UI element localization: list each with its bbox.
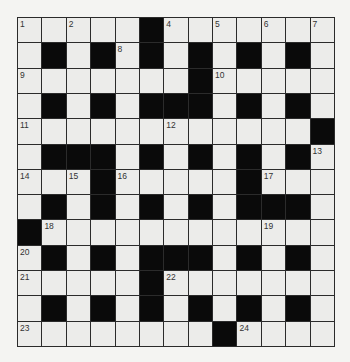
answer-cell[interactable]: 20 bbox=[18, 246, 41, 270]
answer-cell[interactable] bbox=[286, 271, 309, 295]
answer-cell[interactable]: 6 bbox=[262, 18, 285, 42]
answer-cell[interactable]: 4 bbox=[164, 18, 187, 42]
answer-cell[interactable]: 24 bbox=[237, 322, 260, 346]
answer-cell[interactable] bbox=[140, 119, 163, 143]
answer-cell[interactable] bbox=[18, 94, 41, 118]
answer-cell[interactable] bbox=[164, 43, 187, 67]
answer-cell[interactable] bbox=[286, 220, 309, 244]
answer-cell[interactable] bbox=[213, 94, 236, 118]
answer-cell[interactable] bbox=[116, 296, 139, 320]
answer-cell[interactable] bbox=[262, 119, 285, 143]
answer-cell[interactable] bbox=[67, 119, 90, 143]
answer-cell[interactable] bbox=[91, 271, 114, 295]
answer-cell[interactable]: 2 bbox=[67, 18, 90, 42]
answer-cell[interactable] bbox=[140, 69, 163, 93]
answer-cell[interactable] bbox=[140, 170, 163, 194]
answer-cell[interactable] bbox=[189, 220, 212, 244]
answer-cell[interactable] bbox=[213, 246, 236, 270]
answer-cell[interactable]: 19 bbox=[262, 220, 285, 244]
answer-cell[interactable] bbox=[116, 145, 139, 169]
answer-cell[interactable] bbox=[116, 18, 139, 42]
answer-cell[interactable] bbox=[42, 18, 65, 42]
answer-cell[interactable] bbox=[237, 220, 260, 244]
answer-cell[interactable] bbox=[311, 170, 334, 194]
answer-cell[interactable] bbox=[213, 271, 236, 295]
answer-cell[interactable] bbox=[67, 43, 90, 67]
answer-cell[interactable] bbox=[91, 18, 114, 42]
answer-cell[interactable] bbox=[67, 271, 90, 295]
answer-cell[interactable] bbox=[262, 145, 285, 169]
answer-cell[interactable] bbox=[311, 220, 334, 244]
answer-cell[interactable] bbox=[164, 170, 187, 194]
answer-cell[interactable] bbox=[164, 195, 187, 219]
answer-cell[interactable]: 21 bbox=[18, 271, 41, 295]
answer-cell[interactable] bbox=[189, 271, 212, 295]
answer-cell[interactable] bbox=[42, 271, 65, 295]
answer-cell[interactable] bbox=[311, 69, 334, 93]
answer-cell[interactable] bbox=[213, 43, 236, 67]
answer-cell[interactable] bbox=[67, 94, 90, 118]
answer-cell[interactable] bbox=[116, 246, 139, 270]
answer-cell[interactable] bbox=[18, 195, 41, 219]
answer-cell[interactable] bbox=[311, 195, 334, 219]
answer-cell[interactable] bbox=[237, 271, 260, 295]
answer-cell[interactable]: 22 bbox=[164, 271, 187, 295]
answer-cell[interactable]: 23 bbox=[18, 322, 41, 346]
answer-cell[interactable] bbox=[116, 94, 139, 118]
answer-cell[interactable]: 5 bbox=[213, 18, 236, 42]
answer-cell[interactable] bbox=[18, 43, 41, 67]
answer-cell[interactable] bbox=[42, 322, 65, 346]
answer-cell[interactable]: 13 bbox=[311, 145, 334, 169]
answer-cell[interactable]: 1 bbox=[18, 18, 41, 42]
answer-cell[interactable] bbox=[189, 322, 212, 346]
answer-cell[interactable] bbox=[237, 18, 260, 42]
answer-cell[interactable] bbox=[262, 94, 285, 118]
answer-cell[interactable] bbox=[286, 119, 309, 143]
answer-cell[interactable] bbox=[311, 271, 334, 295]
answer-cell[interactable] bbox=[286, 18, 309, 42]
answer-cell[interactable]: 8 bbox=[116, 43, 139, 67]
answer-cell[interactable]: 10 bbox=[213, 69, 236, 93]
answer-cell[interactable]: 14 bbox=[18, 170, 41, 194]
answer-cell[interactable] bbox=[91, 220, 114, 244]
answer-cell[interactable] bbox=[213, 296, 236, 320]
answer-cell[interactable] bbox=[67, 322, 90, 346]
answer-cell[interactable] bbox=[262, 43, 285, 67]
answer-cell[interactable] bbox=[311, 94, 334, 118]
answer-cell[interactable] bbox=[116, 271, 139, 295]
answer-cell[interactable] bbox=[311, 322, 334, 346]
answer-cell[interactable] bbox=[262, 246, 285, 270]
answer-cell[interactable] bbox=[311, 296, 334, 320]
answer-cell[interactable] bbox=[67, 246, 90, 270]
answer-cell[interactable] bbox=[213, 170, 236, 194]
answer-cell[interactable] bbox=[42, 119, 65, 143]
answer-cell[interactable] bbox=[67, 296, 90, 320]
answer-cell[interactable] bbox=[67, 195, 90, 219]
answer-cell[interactable] bbox=[18, 145, 41, 169]
answer-cell[interactable]: 18 bbox=[42, 220, 65, 244]
answer-cell[interactable]: 12 bbox=[164, 119, 187, 143]
answer-cell[interactable] bbox=[262, 69, 285, 93]
answer-cell[interactable] bbox=[262, 271, 285, 295]
answer-cell[interactable] bbox=[311, 246, 334, 270]
answer-cell[interactable] bbox=[42, 170, 65, 194]
answer-cell[interactable] bbox=[140, 322, 163, 346]
answer-cell[interactable] bbox=[189, 18, 212, 42]
answer-cell[interactable] bbox=[213, 220, 236, 244]
answer-cell[interactable] bbox=[140, 220, 163, 244]
answer-cell[interactable] bbox=[311, 43, 334, 67]
answer-cell[interactable] bbox=[18, 296, 41, 320]
answer-cell[interactable] bbox=[213, 195, 236, 219]
answer-cell[interactable] bbox=[237, 69, 260, 93]
answer-cell[interactable] bbox=[164, 220, 187, 244]
answer-cell[interactable] bbox=[189, 119, 212, 143]
answer-cell[interactable] bbox=[213, 145, 236, 169]
answer-cell[interactable] bbox=[164, 296, 187, 320]
answer-cell[interactable] bbox=[91, 322, 114, 346]
answer-cell[interactable] bbox=[286, 69, 309, 93]
answer-cell[interactable] bbox=[91, 69, 114, 93]
answer-cell[interactable] bbox=[116, 195, 139, 219]
answer-cell[interactable] bbox=[116, 69, 139, 93]
answer-cell[interactable]: 11 bbox=[18, 119, 41, 143]
answer-cell[interactable] bbox=[286, 322, 309, 346]
